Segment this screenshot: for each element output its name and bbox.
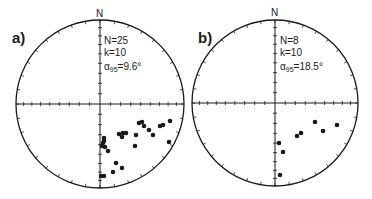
data-point bbox=[120, 135, 125, 140]
primitive-tick bbox=[344, 143, 347, 145]
primitive-tick bbox=[46, 40, 48, 42]
primitive-tick bbox=[315, 31, 317, 34]
data-point bbox=[321, 129, 326, 134]
data-point bbox=[147, 128, 152, 133]
primitive-tick bbox=[128, 25, 129, 28]
primitive-tick bbox=[58, 31, 60, 34]
panel-b-alpha95-stat: α95=18.5° bbox=[280, 61, 323, 73]
data-point bbox=[313, 120, 318, 125]
primitive-tick bbox=[170, 145, 173, 147]
primitive-tick bbox=[46, 166, 48, 168]
primitive-tick bbox=[114, 21, 115, 24]
panel-a-alpha95-stat: α95=9.6° bbox=[104, 61, 141, 73]
data-point bbox=[277, 141, 282, 146]
data-point bbox=[103, 145, 108, 150]
primitive-tick bbox=[211, 50, 213, 52]
primitive-tick bbox=[180, 118, 183, 119]
primitive-tick bbox=[176, 75, 179, 76]
data-point bbox=[335, 123, 340, 128]
primitive-tick bbox=[141, 174, 143, 177]
primitive-tick bbox=[326, 164, 328, 166]
primitive-tick bbox=[247, 25, 248, 28]
primitive-tick bbox=[203, 62, 206, 64]
primitive-tick bbox=[162, 50, 164, 52]
primitive-tick bbox=[141, 31, 143, 34]
data-point bbox=[120, 166, 125, 171]
primitive-tick bbox=[222, 164, 224, 166]
data-point bbox=[114, 161, 119, 166]
primitive-tick bbox=[211, 154, 213, 156]
panel-b-points bbox=[277, 120, 340, 178]
panel-a-n-stat: N=25 bbox=[104, 35, 129, 46]
data-point bbox=[278, 173, 283, 178]
primitive-tick bbox=[128, 180, 129, 183]
data-point bbox=[142, 124, 147, 129]
primitive-tick bbox=[21, 132, 24, 133]
data-point bbox=[106, 149, 111, 154]
primitive-tick bbox=[350, 130, 353, 131]
primitive-tick bbox=[27, 62, 30, 64]
primitive-tick bbox=[152, 166, 154, 168]
primitive-tick bbox=[71, 180, 72, 183]
panel-a: a) N N=25 k=10 α95=9.6° bbox=[12, 8, 184, 188]
primitive-tick bbox=[197, 75, 200, 76]
primitive-tick bbox=[261, 182, 262, 185]
data-point bbox=[299, 131, 304, 136]
primitive-tick bbox=[176, 132, 179, 133]
stereonet-figure: a) N N=25 k=10 α95=9.6° b) N N=8 k=10 α9… bbox=[0, 0, 372, 199]
panel-b: b) N N=8 k=10 α95=18.5° bbox=[192, 7, 358, 186]
primitive-tick bbox=[261, 21, 262, 24]
primitive-tick bbox=[114, 184, 115, 187]
primitive-tick bbox=[326, 39, 328, 41]
data-point bbox=[124, 131, 129, 136]
primitive-tick bbox=[289, 182, 290, 185]
primitive-tick bbox=[21, 75, 24, 76]
primitive-tick bbox=[36, 50, 38, 52]
primitive-tick bbox=[247, 178, 248, 181]
primitive-tick bbox=[170, 62, 173, 64]
panel-a-north-label: N bbox=[96, 8, 103, 19]
primitive-tick bbox=[354, 117, 357, 118]
primitive-tick bbox=[315, 172, 317, 175]
data-point bbox=[167, 140, 172, 145]
panel-a-k-stat: k=10 bbox=[104, 47, 126, 58]
data-point bbox=[281, 150, 286, 155]
primitive-tick bbox=[180, 89, 183, 90]
primitive-tick bbox=[350, 75, 353, 76]
data-point bbox=[151, 133, 156, 138]
panel-a-points bbox=[99, 119, 173, 179]
primitive-tick bbox=[302, 25, 303, 28]
data-point bbox=[111, 170, 116, 175]
primitive-tick bbox=[203, 143, 206, 145]
primitive-tick bbox=[302, 178, 303, 181]
primitive-tick bbox=[162, 156, 164, 158]
primitive-tick bbox=[344, 62, 347, 64]
primitive-tick bbox=[27, 145, 30, 147]
primitive-tick bbox=[193, 117, 196, 118]
panel-b-net bbox=[192, 20, 358, 186]
data-point bbox=[161, 123, 166, 128]
panel-b-k-stat: k=10 bbox=[280, 47, 302, 58]
primitive-tick bbox=[336, 50, 338, 52]
data-point bbox=[140, 120, 145, 125]
primitive-tick bbox=[17, 118, 20, 119]
primitive-tick bbox=[354, 89, 357, 90]
data-point bbox=[168, 119, 173, 124]
data-point bbox=[134, 133, 139, 138]
panel-b-north-label: N bbox=[271, 7, 278, 18]
panel-b-label: b) bbox=[198, 29, 212, 46]
primitive-tick bbox=[152, 40, 154, 42]
primitive-tick bbox=[193, 89, 196, 90]
data-point bbox=[295, 134, 300, 139]
primitive-tick bbox=[336, 154, 338, 156]
primitive-tick bbox=[58, 174, 60, 177]
primitive-tick bbox=[197, 130, 200, 131]
data-point bbox=[102, 174, 107, 179]
panel-b-n-stat: N=8 bbox=[280, 35, 299, 46]
primitive-tick bbox=[71, 25, 72, 28]
primitive-tick bbox=[85, 21, 86, 24]
panel-a-label: a) bbox=[12, 29, 25, 46]
primitive-tick bbox=[85, 184, 86, 187]
primitive-tick bbox=[17, 89, 20, 90]
primitive-tick bbox=[36, 156, 38, 158]
